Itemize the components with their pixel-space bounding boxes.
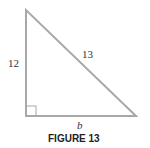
right-triangle [26,10,136,116]
label-base: b [77,119,83,131]
right-angle-marker [26,106,36,116]
triangle-diagram: 12 13 b FIGURE 13 [0,0,150,148]
label-hypotenuse: 13 [82,48,94,60]
label-vertical-side: 12 [8,57,19,69]
figure-caption: FIGURE 13 [48,133,100,144]
